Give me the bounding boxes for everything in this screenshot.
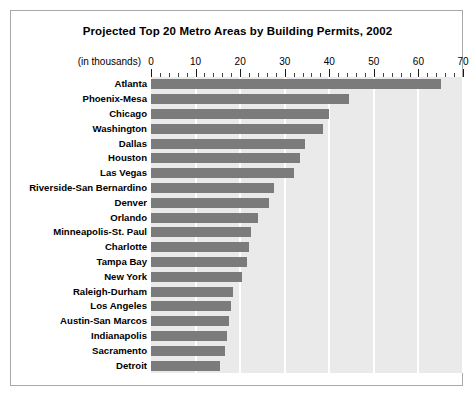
bar [151,331,227,341]
bar [151,361,220,371]
category-label-sacramento: Sacramento [11,346,147,356]
category-label-raleigh-durham: Raleigh-Durham [11,287,147,297]
bar [151,139,305,149]
bar [151,124,323,134]
x-axis-label-0: 0 [148,56,154,67]
gridline [284,77,286,373]
category-label-dallas: Dallas [11,139,147,149]
category-label-tampa-bay: Tampa Bay [11,257,147,267]
x-axis-tick-labels: 010203040506070 [11,56,464,70]
gridline [373,77,375,373]
x-axis-label-70: 70 [457,56,468,67]
gridline [328,77,330,373]
category-label-minneapolis-st-paul: Minneapolis-St. Paul [11,227,147,237]
gridline [195,77,197,373]
bar [151,242,249,252]
bar [151,213,258,223]
bar [151,79,441,89]
bar [151,94,349,104]
category-label-washington: Washington [11,124,147,134]
category-label-las-vegas: Las Vegas [11,168,147,178]
bar [151,109,329,119]
x-axis-label-10: 10 [190,56,201,67]
category-label-indianapolis: Indianapolis [11,331,147,341]
bar [151,227,251,237]
plot-area [151,77,463,373]
chart-container: Projected Top 20 Metro Areas by Building… [10,10,463,386]
category-label-houston: Houston [11,153,147,163]
bar [151,316,229,326]
category-label-detroit: Detroit [11,361,147,371]
category-label-los-angeles: Los Angeles [11,301,147,311]
x-axis-label-30: 30 [279,56,290,67]
category-label-atlanta: Atlanta [11,79,147,89]
bar [151,153,300,163]
category-label-austin-san-marcos: Austin-San Marcos [11,316,147,326]
bar [151,301,231,311]
category-label-chicago: Chicago [11,109,147,119]
category-label-charlotte: Charlotte [11,242,147,252]
y-axis-category-labels: AtlantaPhoenix-MesaChicagoWashingtonDall… [11,77,147,373]
x-axis-label-50: 50 [368,56,379,67]
category-label-new-york: New York [11,272,147,282]
category-label-phoenix-mesa: Phoenix-Mesa [11,94,147,104]
bar [151,272,242,282]
bar [151,183,274,193]
gridline [239,77,241,373]
bar [151,198,269,208]
bar [151,168,294,178]
gridline [462,77,464,373]
x-axis-label-20: 20 [235,56,246,67]
category-label-denver: Denver [11,198,147,208]
category-label-orlando: Orlando [11,213,147,223]
gridline [417,77,419,373]
chart-title: Projected Top 20 Metro Areas by Building… [11,25,464,37]
x-axis-label-40: 40 [324,56,335,67]
bar [151,346,225,356]
bar [151,287,233,297]
category-label-riverside-san-bernardino: Riverside-San Bernardino [11,183,147,193]
x-axis-label-60: 60 [413,56,424,67]
bar [151,257,247,267]
